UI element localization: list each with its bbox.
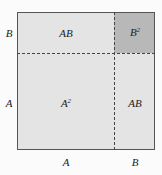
region-b-squared: B2 (130, 26, 140, 39)
region-ab-top: AB (59, 27, 72, 39)
vertical-divider (114, 12, 115, 150)
b-squared-base: B (130, 26, 137, 38)
side-label-b: B (6, 27, 13, 39)
side-label-a: A (6, 97, 13, 109)
a-squared-exp: 2 (68, 97, 72, 105)
horizontal-divider (17, 53, 155, 54)
a-squared-base: A (61, 97, 68, 109)
bottom-label-b: B (132, 156, 139, 168)
region-a-squared: A2 (61, 97, 71, 110)
region-ab-bottom: AB (128, 97, 141, 109)
b-squared-exp: 2 (137, 26, 141, 34)
bottom-label-a: A (63, 156, 70, 168)
